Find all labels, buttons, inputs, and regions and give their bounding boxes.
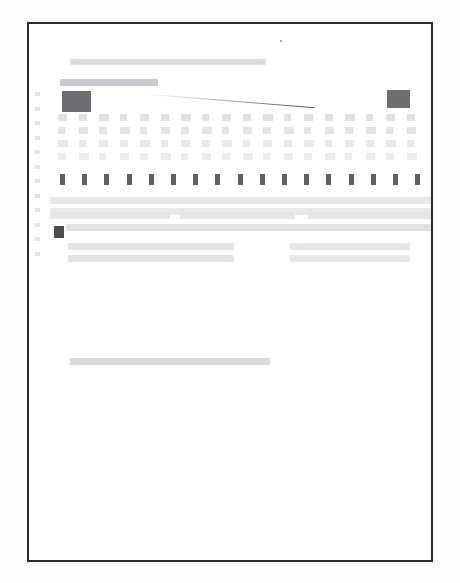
emphasis-mark <box>149 174 154 185</box>
grid-cell <box>304 127 311 134</box>
grid-cell <box>263 127 271 134</box>
paragraph-text-line <box>68 255 234 262</box>
grid-cell <box>58 127 65 134</box>
grid-cell <box>304 153 312 160</box>
grid-cell <box>79 140 86 147</box>
grid-cell <box>407 127 416 134</box>
grid-cell <box>99 114 109 121</box>
diagonal-rule-line <box>150 94 315 108</box>
grid-cell <box>222 153 230 160</box>
margin-tick <box>35 252 40 256</box>
grid-cell <box>222 127 229 134</box>
emphasis-mark <box>282 174 287 185</box>
margin-tick <box>35 165 40 169</box>
grid-cell <box>263 140 272 147</box>
margin-tick <box>35 208 40 212</box>
grid-cell <box>79 114 87 121</box>
grid-cell <box>386 114 395 121</box>
grid-cell <box>120 153 129 160</box>
margin-tick <box>35 194 40 198</box>
grid-cell <box>161 140 168 147</box>
grid-cell <box>407 153 417 160</box>
document-subtitle-bar <box>60 79 158 86</box>
paragraph-text-line <box>290 255 410 262</box>
grid-cell <box>407 140 414 147</box>
grid-cell <box>222 114 231 121</box>
paragraph-text-line <box>66 224 432 231</box>
grid-cell <box>140 153 148 160</box>
emphasis-mark <box>393 174 398 185</box>
paragraph-text-line <box>68 243 234 250</box>
grid-cell <box>181 127 189 134</box>
grid-cell <box>407 114 415 121</box>
emphasis-mark <box>82 174 87 185</box>
grid-cell <box>345 153 352 160</box>
grid-cell <box>304 140 314 147</box>
grid-cell <box>325 140 332 147</box>
grid-cell <box>202 127 212 134</box>
grid-cell <box>345 114 355 121</box>
grid-cell <box>58 140 68 147</box>
paragraph-text-line <box>50 197 432 204</box>
emphasis-mark <box>193 174 198 185</box>
left-dark-block <box>62 91 91 112</box>
grid-cell <box>202 153 211 160</box>
grid-cell <box>325 127 334 134</box>
margin-tick <box>35 136 40 140</box>
margin-tick <box>35 150 40 154</box>
grid-cell <box>243 153 253 160</box>
emphasis-mark <box>415 174 420 185</box>
grid-cell <box>99 140 108 147</box>
grid-cell <box>120 114 127 121</box>
grid-cell <box>58 153 66 160</box>
grid-cell <box>140 114 149 121</box>
grid-cell <box>243 127 252 134</box>
margin-tick <box>35 179 40 183</box>
grid-cell <box>79 127 88 134</box>
grid-cell <box>181 114 191 121</box>
paragraph-text-line <box>180 212 295 219</box>
grid-cell <box>366 114 373 121</box>
emphasis-mark <box>60 174 65 185</box>
grid-cell <box>386 153 394 160</box>
margin-tick <box>35 237 40 241</box>
grid-cell <box>366 140 374 147</box>
grid-cell <box>263 114 273 121</box>
paragraph-text-line <box>50 212 170 219</box>
emphasis-mark <box>215 174 220 185</box>
grid-cell <box>79 153 89 160</box>
grid-cell <box>140 127 147 134</box>
emphasis-mark <box>371 174 376 185</box>
grid-cell <box>325 153 335 160</box>
grid-cell <box>58 114 67 121</box>
scanned-page-sheet <box>27 22 433 562</box>
grid-cell <box>366 127 376 134</box>
grid-cell <box>161 114 169 121</box>
grid-cell <box>222 140 232 147</box>
emphasis-mark <box>238 174 243 185</box>
document-title-line <box>70 59 266 65</box>
grid-cell <box>202 114 209 121</box>
grid-cell <box>202 140 210 147</box>
emphasis-mark <box>171 174 176 185</box>
grid-cell <box>284 140 292 147</box>
grid-cell <box>366 153 375 160</box>
square-bullet-marker <box>54 226 64 238</box>
grid-cell <box>99 153 106 160</box>
grid-cell <box>345 127 353 134</box>
grid-cell <box>161 153 171 160</box>
grid-cell <box>386 127 393 134</box>
paragraph-text-line <box>308 212 432 219</box>
grid-cell <box>284 114 291 121</box>
grid-cell <box>99 127 107 134</box>
emphasis-mark <box>260 174 265 185</box>
grid-cell <box>243 140 250 147</box>
emphasis-mark <box>127 174 132 185</box>
margin-tick <box>35 107 40 111</box>
grid-cell <box>120 127 130 134</box>
grid-cell <box>284 127 294 134</box>
right-dark-block <box>387 90 410 108</box>
emphasis-mark <box>304 174 309 185</box>
grid-cell <box>161 127 170 134</box>
emphasis-mark <box>349 174 354 185</box>
